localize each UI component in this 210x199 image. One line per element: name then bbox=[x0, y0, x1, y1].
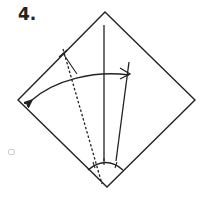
fold-tick bbox=[64, 55, 77, 74]
folded-edge bbox=[116, 62, 129, 161]
small-mark bbox=[8, 149, 15, 155]
fold-diagram bbox=[0, 0, 210, 199]
fold-arrow bbox=[32, 74, 129, 100]
paper-square bbox=[18, 12, 195, 187]
